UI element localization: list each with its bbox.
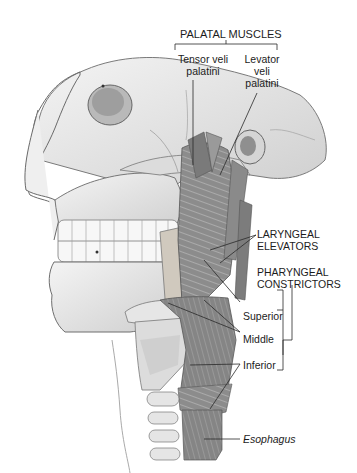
pharyngeal-constrictors-label: PHARYNGEAL CONSTRICTORS [257, 266, 341, 290]
middle-constrictor-label: Middle [243, 333, 274, 345]
tensor-line2: palatini [172, 65, 234, 77]
pharyngeal-line1: PHARYNGEAL [257, 266, 341, 278]
trachea [147, 392, 180, 460]
inferior-constrictor-label: Inferior [243, 359, 276, 371]
neck-outline [112, 340, 130, 473]
laryngeal-line1: LARYNGEAL [257, 228, 320, 240]
levator-line3: palatini [240, 77, 284, 89]
teeth [58, 220, 178, 262]
esophagus-label: Esophagus [243, 433, 296, 445]
pharyngeal-line2: CONSTRICTORS [257, 278, 341, 290]
laryngeal-elevators-label: LARYNGEAL ELEVATORS [257, 228, 320, 252]
tensor-line1: Tensor veli [172, 53, 234, 65]
levator-veli-palatini-label: Levator veli palatini [240, 53, 284, 89]
palatal-muscles-heading: PALATAL MUSCLES [180, 28, 282, 40]
laryngeal-line2: ELEVATORS [257, 240, 320, 252]
levator-line1: Levator [240, 53, 284, 65]
superior-constrictor-label: Superior [243, 310, 283, 322]
esophagus [182, 410, 222, 460]
levator-line2: veli [240, 65, 284, 77]
tensor-veli-palatini-label: Tensor veli palatini [172, 53, 234, 77]
